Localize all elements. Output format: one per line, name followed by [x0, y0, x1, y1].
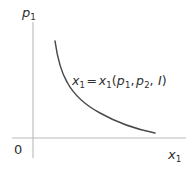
equation-operator: = — [85, 73, 99, 88]
demand-curve-figure: p1 x1 0 x1=x1(p1, p2, I) — [0, 0, 196, 173]
equation-lhs-symbol: x — [72, 73, 80, 88]
demand-function-equation: x1=x1(p1, p2, I) — [72, 75, 167, 89]
equation-separator-1: , — [130, 73, 134, 88]
x-axis-label: x1 — [168, 148, 181, 163]
equation-close-paren: ) — [162, 73, 167, 88]
y-axis-label: p1 — [22, 6, 36, 21]
equation-arg2-symbol: p — [136, 73, 144, 88]
equation-arg1-symbol: p — [117, 73, 125, 88]
x-axis-label-subscript: 1 — [176, 154, 182, 164]
x-axis-label-symbol: x — [168, 147, 176, 162]
y-axis-label-subscript: 1 — [30, 12, 36, 22]
equation-separator-2: , — [150, 73, 154, 88]
origin-label: 0 — [14, 143, 22, 156]
